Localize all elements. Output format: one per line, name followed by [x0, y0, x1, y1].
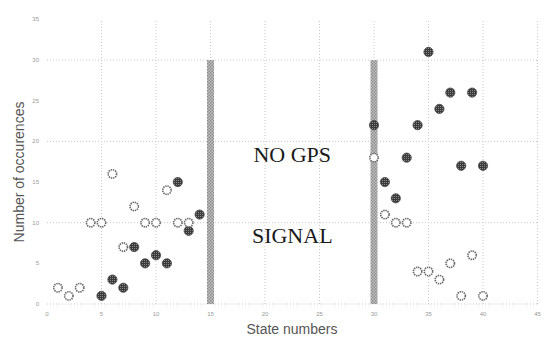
filled-data-point [468, 88, 477, 97]
hollow-data-point [119, 243, 127, 251]
y-tick-label: 35 [32, 16, 39, 22]
x-tick-label: 25 [316, 311, 323, 317]
hollow-data-point [468, 251, 476, 259]
annotations: NO GPSSIGNAL [252, 142, 333, 248]
data-points [54, 47, 488, 300]
y-axis-title: Number of occurences [11, 102, 27, 243]
y-tick-label: 30 [32, 57, 39, 63]
hollow-data-point [185, 219, 193, 227]
hollow-data-point [97, 219, 105, 227]
y-tick-label: 15 [32, 179, 39, 185]
hollow-data-point [130, 202, 138, 210]
hollow-data-point [163, 186, 171, 194]
filled-data-point [195, 210, 204, 219]
filled-data-point [457, 161, 466, 170]
hollow-data-point [108, 170, 116, 178]
x-tick-label: 0 [45, 311, 49, 317]
filled-data-point [380, 177, 389, 186]
annotation-text: SIGNAL [252, 223, 333, 248]
hollow-data-point [54, 284, 62, 292]
hollow-data-point [65, 292, 73, 300]
filled-data-point [130, 242, 139, 251]
x-tick-label: 20 [262, 311, 269, 317]
x-axis-ticks: 051015202530354045 [45, 311, 541, 317]
hollow-data-point [413, 267, 421, 275]
y-tick-label: 5 [36, 260, 40, 266]
x-tick-label: 10 [153, 311, 160, 317]
filled-data-point [108, 275, 117, 284]
filled-data-point [162, 259, 171, 268]
hollow-data-point [86, 219, 94, 227]
filled-data-point [184, 226, 193, 235]
annotation-text: NO GPS [253, 142, 331, 167]
hollow-data-point [76, 284, 84, 292]
hollow-data-point [152, 219, 160, 227]
y-tick-label: 10 [32, 220, 39, 226]
x-tick-label: 15 [207, 311, 214, 317]
x-tick-label: 35 [425, 311, 432, 317]
x-tick-label: 30 [371, 311, 378, 317]
filled-data-point [402, 153, 411, 162]
filled-data-point [151, 251, 160, 260]
filled-data-point [141, 259, 150, 268]
filled-data-point [119, 283, 128, 292]
filled-data-point [97, 291, 106, 300]
filled-data-point [413, 121, 422, 130]
x-axis-title: State numbers [246, 321, 337, 337]
hollow-data-point [435, 275, 443, 283]
x-tick-label: 5 [100, 311, 104, 317]
hollow-data-point [457, 292, 465, 300]
y-tick-label: 0 [36, 301, 40, 307]
hollow-data-point [174, 219, 182, 227]
y-tick-label: 25 [32, 98, 39, 104]
hollow-data-point [392, 219, 400, 227]
boundary-bar [207, 60, 214, 304]
x-tick-label: 40 [480, 311, 487, 317]
boundary-bar [371, 60, 378, 304]
hollow-data-point [381, 210, 389, 218]
hollow-data-point [479, 292, 487, 300]
scatter-chart: 05101520253035 051015202530354045 NO GPS… [0, 0, 558, 360]
x-tick-label: 45 [534, 311, 541, 317]
hollow-data-point [141, 219, 149, 227]
y-axis-ticks: 05101520253035 [32, 16, 39, 307]
hollow-data-point [446, 259, 454, 267]
filled-data-point [478, 161, 487, 170]
hollow-data-point [403, 219, 411, 227]
y-tick-label: 20 [32, 138, 39, 144]
hollow-data-point [424, 267, 432, 275]
hollow-data-point [370, 153, 378, 161]
filled-data-point [446, 88, 455, 97]
filled-data-point [173, 177, 182, 186]
filled-data-point [424, 47, 433, 56]
filled-data-point [435, 104, 444, 113]
filled-data-point [369, 121, 378, 130]
filled-data-point [391, 194, 400, 203]
no-gps-boundary-bars [207, 60, 378, 304]
